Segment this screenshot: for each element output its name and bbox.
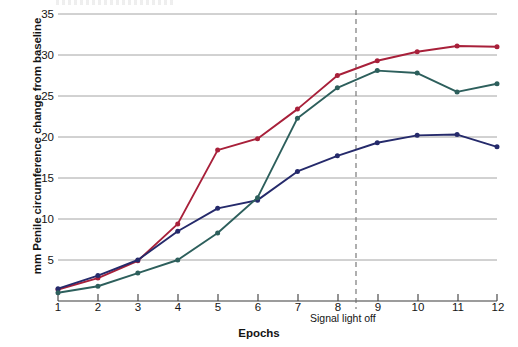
data-point[interactable] <box>175 221 180 226</box>
data-point[interactable] <box>135 258 140 263</box>
data-point[interactable] <box>415 49 420 54</box>
data-point[interactable] <box>415 71 420 76</box>
series-line-teal-series <box>58 71 497 293</box>
data-series-layer <box>56 43 500 295</box>
data-point[interactable] <box>175 229 180 234</box>
data-point[interactable] <box>215 230 220 235</box>
data-point[interactable] <box>255 136 260 141</box>
data-point[interactable] <box>455 89 460 94</box>
data-point[interactable] <box>56 290 61 295</box>
data-point[interactable] <box>95 284 100 289</box>
data-point[interactable] <box>295 116 300 121</box>
data-point[interactable] <box>375 140 380 145</box>
data-point[interactable] <box>335 85 340 90</box>
series-teal-series <box>56 68 500 295</box>
data-point[interactable] <box>415 133 420 138</box>
data-point[interactable] <box>215 206 220 211</box>
data-point[interactable] <box>335 153 340 158</box>
data-point[interactable] <box>95 273 100 278</box>
data-point[interactable] <box>335 73 340 78</box>
data-point[interactable] <box>215 148 220 153</box>
series-line-red-series <box>58 46 497 290</box>
data-point[interactable] <box>455 132 460 137</box>
x-axis-tickmarks <box>58 294 497 301</box>
data-point[interactable] <box>375 68 380 73</box>
data-point[interactable] <box>295 169 300 174</box>
data-point[interactable] <box>375 58 380 63</box>
gridlines <box>58 14 497 260</box>
chart-figure: mm Penile circumference change from base… <box>0 0 518 347</box>
data-point[interactable] <box>255 195 260 200</box>
data-point[interactable] <box>175 258 180 263</box>
data-point[interactable] <box>455 43 460 48</box>
data-point[interactable] <box>495 81 500 86</box>
data-point[interactable] <box>295 107 300 112</box>
chart-plot-area <box>0 0 518 347</box>
data-point[interactable] <box>495 44 500 49</box>
data-point[interactable] <box>495 144 500 149</box>
data-point[interactable] <box>135 271 140 276</box>
